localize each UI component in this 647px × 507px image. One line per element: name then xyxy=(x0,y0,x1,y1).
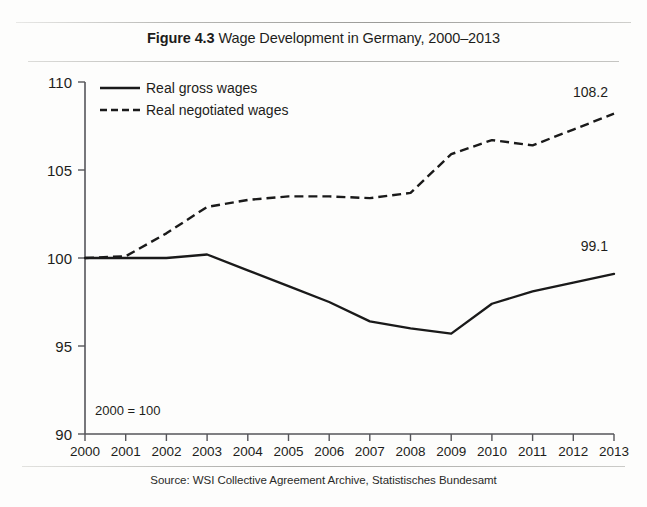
endpoint-label-negotiated: 108.2 xyxy=(573,84,608,100)
x-tick-label-2001: 2001 xyxy=(111,444,141,459)
y-axis-ticks: 110 105 100 95 90 xyxy=(47,74,85,443)
figure-title: Figure 4.3 Wage Development in Germany, … xyxy=(0,30,647,46)
figure-caption: Wage Development in Germany, 2000–2013 xyxy=(218,30,500,46)
y-tick-label-105: 105 xyxy=(47,162,72,179)
figure-source: Source: WSI Collective Agreement Archive… xyxy=(0,474,647,486)
chart-legend: Real gross wages Real negotiated wages xyxy=(100,80,288,118)
series-real-negotiated-wages xyxy=(85,114,614,258)
x-tick-label-2006: 2006 xyxy=(314,444,344,459)
y-tick-label-95: 95 xyxy=(55,338,72,355)
wage-development-line-chart: 110 105 100 95 90 xyxy=(0,0,647,507)
legend-label-real-negotiated-wages: Real negotiated wages xyxy=(146,102,288,118)
data-series xyxy=(85,114,614,334)
x-tick-label-2007: 2007 xyxy=(355,444,385,459)
x-tick-label-2010: 2010 xyxy=(477,444,507,459)
series-real-gross-wages xyxy=(85,254,614,333)
figure-number: Figure 4.3 xyxy=(147,30,215,46)
x-tick-label-2013: 2013 xyxy=(599,444,629,459)
figure-page: Figure 4.3 Wage Development in Germany, … xyxy=(0,0,647,507)
y-tick-label-100: 100 xyxy=(47,250,72,267)
x-tick-label-2005: 2005 xyxy=(273,444,303,459)
y-tick-label-90: 90 xyxy=(55,426,72,443)
base-year-note: 2000 = 100 xyxy=(95,403,160,418)
x-tick-label-2000: 2000 xyxy=(70,444,100,459)
title-underline-rule xyxy=(28,61,619,62)
x-tick-label-2003: 2003 xyxy=(192,444,222,459)
endpoint-labels: 108.2 99.1 xyxy=(573,84,608,254)
endpoint-label-gross: 99.1 xyxy=(581,238,608,254)
x-tick-label-2011: 2011 xyxy=(518,444,547,459)
legend-label-real-gross-wages: Real gross wages xyxy=(146,80,257,96)
top-rule xyxy=(16,22,631,23)
x-tick-label-2004: 2004 xyxy=(233,444,264,459)
x-tick-label-2012: 2012 xyxy=(558,444,588,459)
x-tick-label-2002: 2002 xyxy=(151,444,181,459)
x-axis-ticks: 2000 2001 2002 2003 2004 2005 2006 2007 … xyxy=(70,434,629,459)
chart-area: 110 105 100 95 90 xyxy=(0,0,647,507)
axes xyxy=(85,82,614,434)
y-tick-label-110: 110 xyxy=(48,74,72,91)
footer-rule xyxy=(22,466,625,467)
x-tick-label-2008: 2008 xyxy=(395,444,425,459)
x-tick-label-2009: 2009 xyxy=(436,444,466,459)
